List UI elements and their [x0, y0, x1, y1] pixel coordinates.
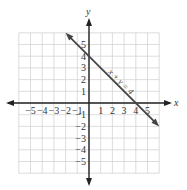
y-tick-label: −3 — [75, 133, 86, 144]
x-tick-label: −5 — [25, 105, 36, 116]
equation-label: x + y = 4 — [106, 66, 137, 97]
x-axis-arrow-left-icon — [6, 100, 14, 106]
y-tick-label: −5 — [75, 156, 86, 167]
y-tick-label: 3 — [81, 62, 86, 73]
x-tick-label: −3 — [49, 105, 60, 116]
y-axis-arrow-down-icon — [86, 178, 92, 186]
y-tick-label: 1 — [81, 86, 86, 97]
y-axis-arrow-up-icon — [86, 18, 92, 26]
y-tick-label: −1 — [75, 109, 86, 120]
y-tick-label: −4 — [75, 144, 86, 155]
x-axis-arrow-right-icon — [164, 100, 172, 106]
x-tick-label: 4 — [133, 105, 138, 116]
x-tick-label: 3 — [122, 105, 127, 116]
x-tick-label: −2 — [60, 105, 71, 116]
x-tick-label: 1 — [98, 105, 103, 116]
y-axis-label: y — [85, 6, 91, 17]
x-axis-label: x — [173, 97, 179, 108]
y-tick-label: −2 — [75, 121, 86, 132]
x-tick-label: 2 — [110, 105, 115, 116]
y-tick-label: 2 — [81, 74, 86, 85]
coordinate-plane: x y −5−4−3−2−112345 −5−4−3−2−112345 x + … — [0, 0, 187, 190]
x-tick-label: −4 — [37, 105, 48, 116]
